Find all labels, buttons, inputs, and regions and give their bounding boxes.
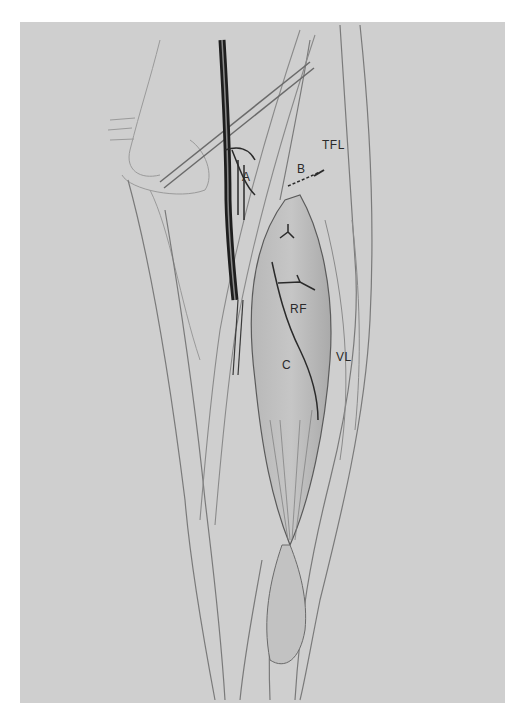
- thigh-anatomy-drawing: [20, 22, 505, 703]
- label-tfl: TFL: [322, 138, 345, 152]
- label-c: C: [282, 358, 291, 372]
- label-rf: RF: [290, 302, 307, 316]
- illustration-frame: A B TFL RF C VL: [20, 22, 505, 703]
- label-b: B: [297, 162, 306, 176]
- label-vl: VL: [336, 350, 352, 364]
- label-a: A: [242, 170, 251, 184]
